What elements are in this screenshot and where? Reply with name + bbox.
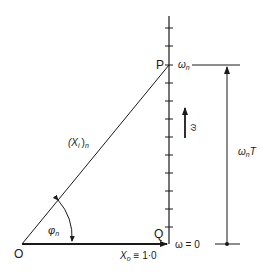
omega-zero-label: ω = 0	[175, 239, 200, 250]
hypotenuse-label: (Xi)n	[68, 137, 89, 149]
hypotenuse-phasor	[22, 65, 169, 244]
base-label: Xo≡ 1·0	[119, 250, 157, 262]
omega-n-label: ωn	[178, 59, 190, 71]
point-label-o: O	[14, 247, 23, 261]
dimension-line	[192, 65, 240, 246]
omega-axis	[165, 16, 173, 244]
point-label-q: Q	[154, 227, 163, 241]
angle-arc	[58, 200, 72, 241]
phasor-diagram: P Q O ωn ω = 0 ω ωnT (Xi)n φn Xo≡ 1·0	[0, 0, 269, 277]
omega-arrow-label: ω	[188, 124, 198, 131]
dimension-label: ωnT	[238, 146, 257, 158]
angle-label: φn	[48, 224, 59, 237]
point-label-p: P	[156, 58, 164, 72]
